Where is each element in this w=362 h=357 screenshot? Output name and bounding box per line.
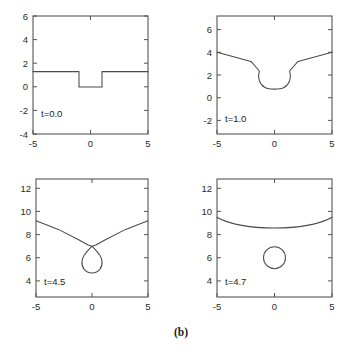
y-ticklabel: 6 [23, 11, 28, 22]
x-ticklabel: -5 [29, 138, 37, 149]
interface-curve [36, 221, 148, 247]
y-tick-marks [36, 188, 148, 281]
y-ticklabel: -4 [20, 129, 28, 140]
time-label: t=1.0 [225, 113, 246, 124]
panel-t45: 12 10 8 6 4 -5 0 5 t=4.5 [0, 165, 181, 330]
interface-curve [33, 72, 148, 87]
y-ticklabel: -2 [204, 115, 212, 126]
y-ticklabel: 2 [207, 70, 212, 81]
x-ticklabel: -5 [213, 138, 221, 149]
x-ticklabel: 0 [272, 301, 277, 312]
y-ticklabel: 4 [207, 275, 212, 286]
y-ticklabel: 10 [20, 206, 31, 217]
panel-t1: 6 4 2 0 -2 -5 0 5 t=1.0 [181, 0, 362, 165]
figure-container: 6 4 2 0 -2 -4 -5 0 5 t=0.0 [0, 0, 362, 357]
y-tick-marks [217, 30, 332, 121]
y-ticklabel: 4 [23, 34, 28, 45]
pendant-drop [82, 246, 102, 273]
y-ticklabel: 2 [23, 58, 28, 69]
y-ticklabel: 12 [20, 183, 31, 194]
y-ticklabel: 4 [207, 47, 212, 58]
y-ticklabel: -2 [20, 105, 28, 116]
panel-t0-plot: 6 4 2 0 -2 -4 -5 0 5 t=0.0 [0, 0, 181, 165]
x-ticklabel: -5 [32, 301, 40, 312]
y-ticklabel: 8 [26, 229, 31, 240]
panel-t47-plot: 12 10 8 6 4 -5 0 5 t=4.7 [181, 165, 362, 330]
panel-t0: 6 4 2 0 -2 -4 -5 0 5 t=0.0 [0, 0, 181, 165]
detached-drop [264, 247, 286, 269]
y-tick-marks [217, 188, 332, 281]
y-ticklabel: 6 [207, 252, 212, 263]
y-ticklabel: 4 [26, 275, 31, 286]
time-label: t=0.0 [41, 108, 62, 119]
x-ticklabel: 5 [329, 138, 334, 149]
y-ticklabel: 10 [201, 206, 212, 217]
time-label: t=4.5 [44, 276, 65, 287]
interface-curve [217, 217, 332, 228]
x-ticklabel: 0 [89, 301, 94, 312]
panel-t1-plot: 6 4 2 0 -2 -5 0 5 t=1.0 [181, 0, 362, 165]
panel-t47: 12 10 8 6 4 -5 0 5 t=4.7 [181, 165, 362, 330]
y-ticklabel: 6 [26, 252, 31, 263]
x-ticklabel: 0 [272, 138, 277, 149]
x-ticklabel: -5 [213, 301, 221, 312]
figure-caption: (b) [0, 326, 362, 338]
x-ticklabel: 5 [145, 301, 150, 312]
y-ticklabel: 0 [23, 81, 28, 92]
y-ticklabel: 6 [207, 24, 212, 35]
y-ticklabel: 8 [207, 229, 212, 240]
panel-t45-plot: 12 10 8 6 4 -5 0 5 t=4.5 [0, 165, 181, 330]
x-ticklabel: 5 [329, 301, 334, 312]
x-ticklabel: 0 [88, 138, 93, 149]
time-label: t=4.7 [225, 276, 246, 287]
panel-grid: 6 4 2 0 -2 -4 -5 0 5 t=0.0 [0, 0, 362, 330]
y-ticklabel: 0 [207, 92, 212, 103]
y-ticklabel: 12 [201, 183, 212, 194]
interface-curve [217, 52, 332, 89]
x-ticklabel: 5 [145, 138, 150, 149]
